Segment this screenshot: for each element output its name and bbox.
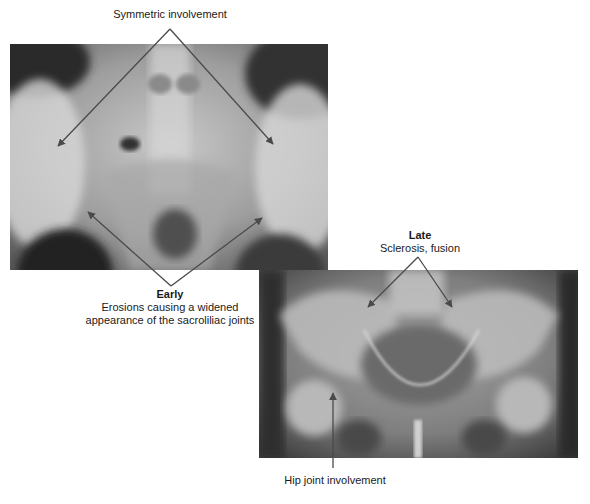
late-title: Late [355,229,485,242]
xray-image-late [259,270,578,458]
label-early: Early Erosions causing a widened appeara… [70,288,270,327]
early-line-2: appearance of the sacroliliac joints [70,314,270,327]
label-late: Late Sclerosis, fusion [355,229,485,255]
hip-text: Hip joint involvement [284,474,386,486]
label-symmetric-involvement: Symmetric involvement [90,8,250,21]
early-title: Early [70,288,270,301]
symmetric-text: Symmetric involvement [113,8,227,20]
early-line-1: Erosions causing a widened [70,301,270,314]
label-hip-joint: Hip joint involvement [270,474,400,487]
late-subtitle: Sclerosis, fusion [355,242,485,255]
xray-image-early [10,44,328,270]
